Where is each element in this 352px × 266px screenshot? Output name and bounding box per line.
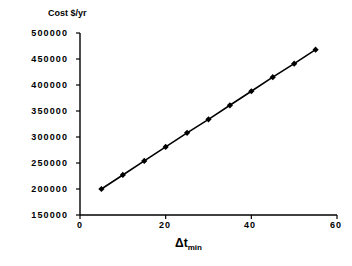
chart-canvas	[0, 0, 352, 266]
cost-vs-delta-tmin-chart: Cost $/yr 500000 450000 400000 350000 30…	[0, 0, 352, 266]
